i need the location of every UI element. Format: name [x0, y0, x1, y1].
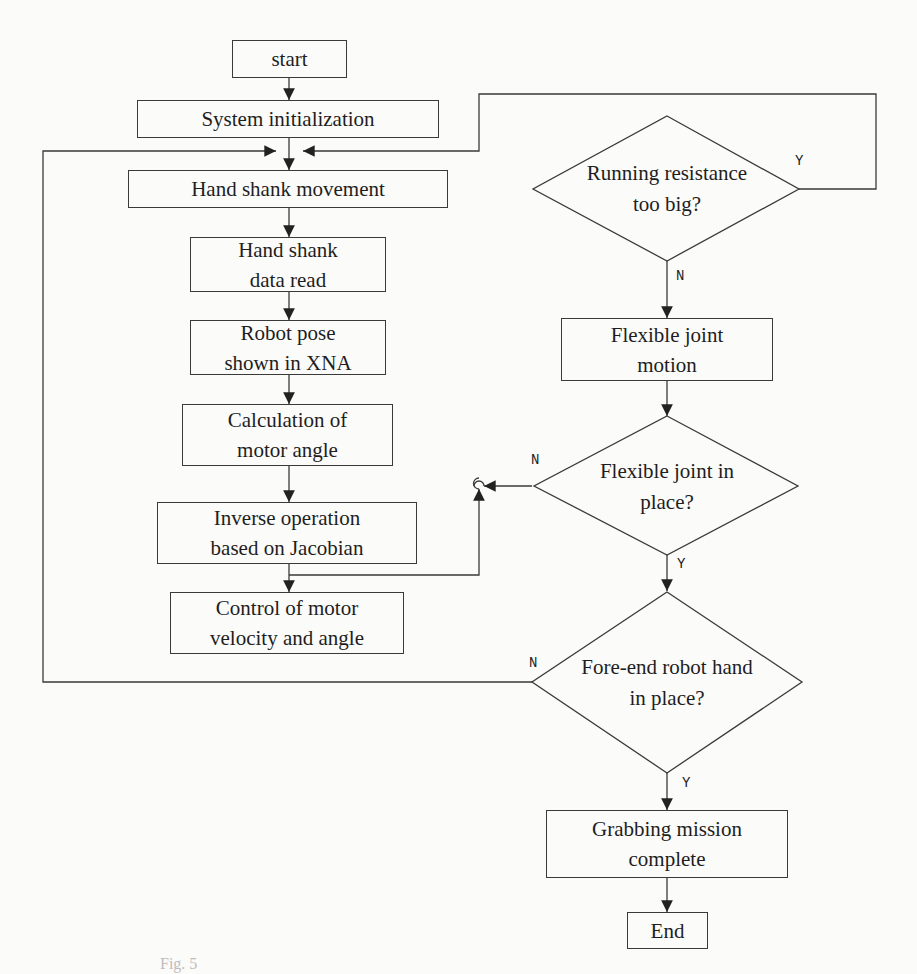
decision-resistance-label: Running resistance too big? [560, 158, 774, 220]
edge-label-foreend-no: N [529, 655, 537, 671]
pose-node: Robot pose shown in XNA [190, 320, 386, 375]
init-node: System initialization [137, 100, 439, 138]
inverse-node: Inverse operation based on Jacobian [157, 502, 417, 564]
edge-label-resistance-no: N [676, 268, 684, 284]
read-node: Hand shank data read [190, 237, 386, 292]
decision-flex-place-label: Flexible joint in place? [560, 456, 774, 518]
grab-node: Grabbing mission complete [546, 810, 788, 878]
flex-motion-node: Flexible joint motion [561, 318, 773, 381]
start-node: start [232, 40, 347, 78]
figure-caption: Fig. 5 [160, 955, 197, 973]
edge-label-foreend-yes: Y [682, 775, 690, 791]
end-node: End [627, 912, 708, 949]
calc-node: Calculation of motor angle [182, 404, 393, 466]
edge-label-flex-place-yes: Y [677, 556, 685, 572]
edge-label-flex-place-no: N [531, 452, 539, 468]
control-node: Control of motor velocity and angle [170, 592, 404, 654]
edge-label-resistance-yes: Y [795, 153, 803, 169]
movement-node: Hand shank movement [128, 170, 448, 208]
decision-foreend-label: Fore-end robot hand in place? [552, 652, 782, 714]
